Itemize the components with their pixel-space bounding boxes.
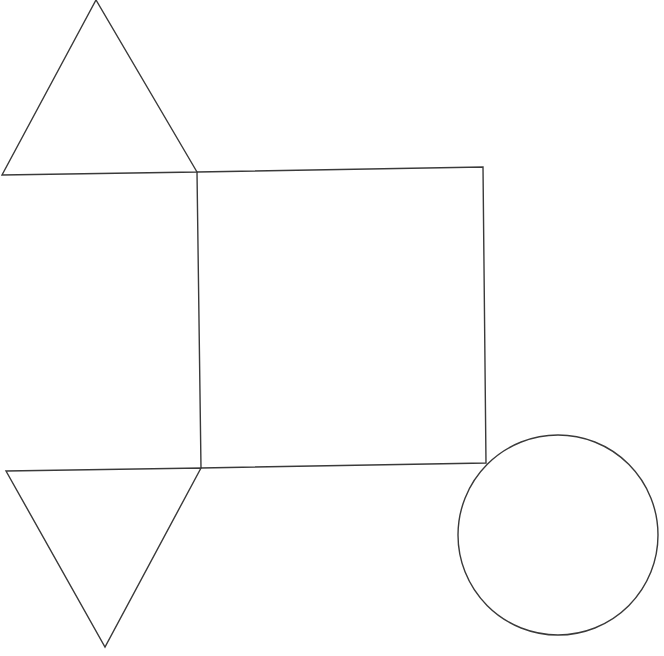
central-square xyxy=(197,167,486,468)
bottom-triangle xyxy=(6,468,201,647)
top-triangle xyxy=(2,0,197,175)
diagram-canvas xyxy=(0,0,664,656)
circle xyxy=(458,435,658,635)
